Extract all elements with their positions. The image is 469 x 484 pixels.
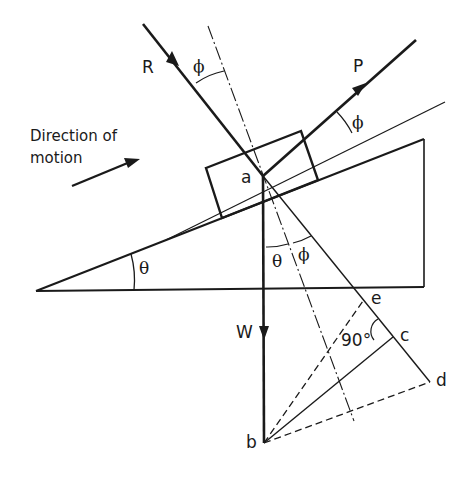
label-phi-P: ϕ xyxy=(352,112,364,132)
phi-P-arc xyxy=(337,112,352,133)
label-phi-bottom: ϕ xyxy=(298,244,310,264)
force-P xyxy=(263,40,416,176)
label-R: R xyxy=(142,57,154,77)
label-point-b: b xyxy=(246,432,257,452)
force-W xyxy=(259,176,269,443)
direction-label-line1: Direction of xyxy=(30,127,118,145)
label-W: W xyxy=(236,322,253,342)
theta-incline-arc xyxy=(131,254,135,290)
label-right-angle: 90° xyxy=(341,330,371,350)
label-theta-incline: θ xyxy=(139,258,149,278)
label-point-e: e xyxy=(371,288,381,308)
direction-label-line2: motion xyxy=(30,149,83,167)
inclined-plane-diagram: Direction of motion R P W a b c d e ϕ ϕ … xyxy=(0,0,469,484)
label-P: P xyxy=(353,56,363,76)
theta-bottom-arc xyxy=(266,244,288,247)
label-theta-bottom: θ xyxy=(272,251,282,271)
force-R xyxy=(143,24,263,176)
label-point-d: d xyxy=(436,370,447,390)
line-a-d xyxy=(263,176,430,382)
phi-bottom-arc xyxy=(293,236,311,243)
construction-lines xyxy=(264,301,430,443)
normal-line xyxy=(208,26,354,421)
label-phi-R: ϕ xyxy=(193,56,205,76)
right-angle-mark xyxy=(371,319,378,340)
arrow-right-icon xyxy=(124,158,140,168)
arrow-up-left-icon xyxy=(166,51,179,66)
label-point-c: c xyxy=(400,325,409,345)
label-point-a: a xyxy=(241,167,251,187)
arrow-down-icon xyxy=(259,326,269,340)
